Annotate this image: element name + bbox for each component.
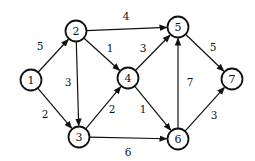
node-label: 3 — [76, 131, 83, 144]
edge-6-to-7 — [185, 88, 224, 132]
node-label: 1 — [28, 74, 35, 87]
edge-weight-2-5: 4 — [123, 10, 130, 22]
node-label: 6 — [175, 133, 182, 146]
node-4: 4 — [118, 68, 139, 89]
edge-weight-3-6: 6 — [125, 146, 132, 158]
arrow-icon — [86, 27, 166, 30]
arrow-icon — [84, 38, 120, 70]
edge-5-to-7 — [186, 34, 224, 71]
arrow-icon — [186, 34, 224, 71]
edge-weight-4-6: 1 — [140, 103, 147, 115]
graph-diagram: 524132631753 1234567 — [0, 0, 255, 161]
edge-2-to-5 — [86, 27, 166, 30]
node-6: 6 — [168, 129, 189, 150]
edge-weight-4-5: 3 — [140, 42, 147, 54]
edge-weight-5-7: 5 — [210, 41, 217, 53]
arrow-icon — [76, 41, 78, 125]
arrow-icon — [89, 137, 166, 139]
edge-weight-2-3: 3 — [65, 76, 72, 88]
node-7: 7 — [222, 69, 243, 90]
edge-weight-6-5: 7 — [187, 76, 194, 88]
node-1: 1 — [21, 70, 42, 91]
node-label: 5 — [175, 21, 182, 34]
edge-3-to-6 — [89, 137, 166, 139]
edge-2-to-4 — [84, 38, 120, 70]
node-3: 3 — [69, 127, 90, 148]
node-label: 4 — [125, 72, 132, 85]
arrow-icon — [86, 87, 121, 129]
edge-3-to-4 — [86, 87, 121, 129]
nodes-layer: 1234567 — [21, 17, 243, 150]
arrow-icon — [185, 88, 224, 132]
edge-weight-3-4: 2 — [109, 103, 116, 115]
edge-weight-1-3: 2 — [42, 108, 49, 120]
edge-2-to-3 — [76, 41, 78, 125]
node-label: 2 — [73, 25, 80, 38]
node-2: 2 — [66, 21, 87, 42]
edge-weight-2-4: 1 — [107, 42, 114, 54]
edge-weight-6-7: 3 — [211, 109, 218, 121]
node-label: 7 — [229, 73, 236, 86]
node-5: 5 — [168, 17, 189, 38]
edge-weight-1-2: 5 — [37, 40, 44, 52]
